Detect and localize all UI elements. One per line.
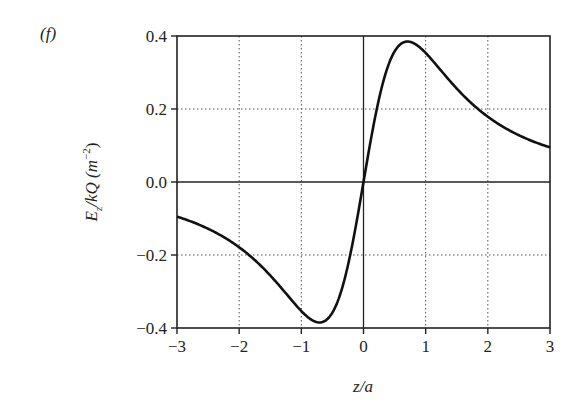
tick-labels: −3−2−10123−0.4−0.20.00.20.4 [136,27,554,356]
x-tick-label: −1 [292,337,310,356]
y-tick-label: 0.4 [146,27,168,46]
x-axis-title: z/a [352,377,373,396]
y-tick-label: 0.0 [146,173,167,192]
y-tick-label: 0.2 [146,100,167,119]
x-tick-label: 3 [546,337,555,356]
x-tick-label: −2 [230,337,248,356]
x-tick-label: 2 [484,337,493,356]
line-chart: −3−2−10123−0.4−0.20.00.20.4 z/a [0,0,580,414]
axes [171,36,550,334]
x-tick-label: 0 [359,337,368,356]
y-tick-label: −0.2 [136,246,167,265]
y-tick-label: −0.4 [136,319,167,338]
x-tick-label: −3 [168,337,186,356]
x-tick-label: 1 [421,337,430,356]
